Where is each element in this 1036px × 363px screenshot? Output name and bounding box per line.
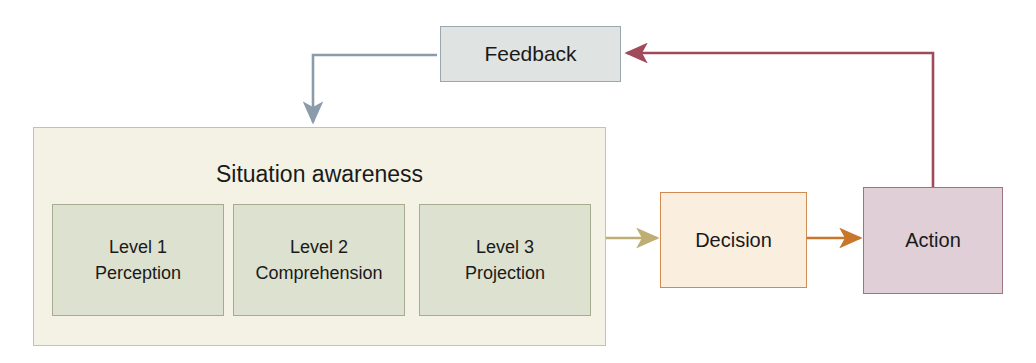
node-feedback[interactable]: Feedback (440, 26, 621, 82)
node-feedback-label: Feedback (484, 42, 576, 66)
connector-feedback-to-situation-awareness (313, 55, 437, 122)
node-level-3-line2: Projection (465, 260, 545, 286)
node-level-1-line2: Perception (95, 260, 181, 286)
node-action[interactable]: Action (863, 187, 1003, 294)
node-situation-awareness[interactable]: Situation awareness Level 1 Perception L… (33, 127, 606, 346)
node-decision-label: Decision (695, 229, 772, 252)
node-situation-awareness-label: Situation awareness (34, 161, 605, 188)
connector-action-to-feedback (627, 53, 933, 187)
node-level-2[interactable]: Level 2 Comprehension (233, 204, 405, 316)
diagram-canvas: Feedback Situation awareness Level 1 Per… (0, 0, 1036, 363)
node-level-2-line1: Level 2 (290, 234, 348, 260)
node-level-3[interactable]: Level 3 Projection (419, 204, 591, 316)
node-action-label: Action (905, 229, 961, 252)
node-level-2-line2: Comprehension (255, 260, 382, 286)
node-level-1[interactable]: Level 1 Perception (52, 204, 224, 316)
node-level-3-line1: Level 3 (476, 234, 534, 260)
node-decision[interactable]: Decision (660, 192, 807, 288)
node-level-1-line1: Level 1 (109, 234, 167, 260)
